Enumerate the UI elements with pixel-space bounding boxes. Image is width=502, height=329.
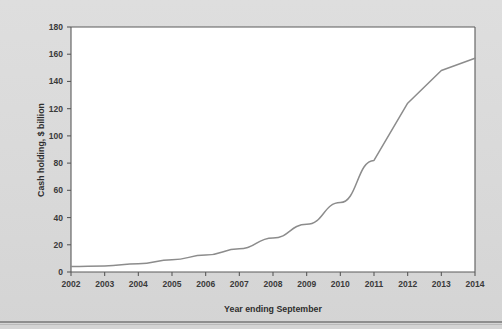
y-axis-tick-labels: 020406080100120140160180 [49, 22, 63, 277]
x-axis-tick-label: 2005 [163, 279, 182, 289]
x-axis-tick-label: 2007 [230, 279, 249, 289]
x-axis-title: Year ending September [224, 304, 322, 314]
y-axis-tick-label: 60 [54, 185, 64, 195]
y-axis-title: Cash holding, $ billion [36, 103, 46, 197]
x-axis-tick-label: 2008 [264, 279, 283, 289]
x-axis-tick-labels: 2002200320042005200620072008200920102011… [62, 279, 485, 289]
line-chart: 020406080100120140160180 200220032004200… [0, 0, 502, 329]
x-axis-tick-label: 2003 [95, 279, 114, 289]
x-axis-tick-label: 2011 [365, 279, 384, 289]
x-axis-tick-label: 2009 [297, 279, 316, 289]
chart-figure: 020406080100120140160180 200220032004200… [0, 0, 502, 329]
y-axis-tick-label: 120 [49, 104, 63, 114]
y-axis-tick-label: 20 [54, 240, 64, 250]
y-axis-tick-label: 160 [49, 49, 63, 59]
y-axis-tick-label: 140 [49, 76, 63, 86]
page-footer-rule-light [0, 324, 502, 325]
y-axis-ticks [67, 27, 71, 272]
y-axis-tick-label: 0 [58, 267, 63, 277]
x-axis-tick-label: 2013 [432, 279, 451, 289]
x-axis-tick-label: 2010 [331, 279, 350, 289]
x-axis-ticks [71, 272, 475, 276]
y-axis-tick-label: 100 [49, 131, 63, 141]
x-axis-tick-label: 2004 [129, 279, 148, 289]
y-axis-tick-label: 180 [49, 22, 63, 32]
page-footer-rule [0, 321, 502, 323]
x-axis-tick-label: 2002 [62, 279, 81, 289]
y-axis-tick-label: 40 [54, 213, 64, 223]
y-axis-tick-label: 80 [54, 158, 64, 168]
x-axis-tick-label: 2014 [466, 279, 485, 289]
x-axis-tick-label: 2006 [196, 279, 215, 289]
x-axis-tick-label: 2012 [398, 279, 417, 289]
plot-area-background [71, 27, 475, 272]
